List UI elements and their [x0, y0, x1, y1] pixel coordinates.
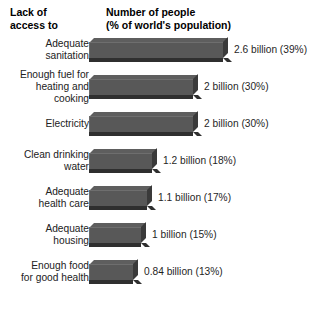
bar-front-face: [89, 264, 133, 280]
bar-bottom-face: [89, 206, 147, 210]
bar-bottom-face: [89, 132, 193, 136]
bar: [89, 260, 133, 284]
bar-category-label-line: Adequate: [3, 38, 89, 50]
bar-value-label: 2 billion (30%): [204, 81, 269, 93]
bar-category-label-line: sanitation: [3, 50, 89, 62]
bar-category-label-line: cooking: [3, 93, 89, 105]
bar: [89, 223, 141, 247]
bar-row: Electricity2 billion (30%): [0, 108, 321, 145]
bar-row: Enough fuel forheating andcooking2 billi…: [0, 71, 321, 108]
bar-category-label: Clean drinkingwater: [3, 149, 89, 173]
bar-bottom-face: [89, 95, 193, 99]
bar-category-label-line: housing: [3, 235, 89, 247]
bar-category-label: Electricity: [3, 118, 89, 130]
bar-side-face: [193, 74, 198, 95]
bar-category-label-line: Enough fuel for: [3, 69, 89, 81]
header-right-line-1: Number of people: [106, 6, 306, 19]
bar-bottom-face: [89, 169, 152, 173]
bar-category-label-line: Enough food: [3, 260, 89, 272]
bar-category-label-line: water: [3, 161, 89, 173]
bar-category-label-line: Adequate: [3, 186, 89, 198]
bar-value-label: 1.1 billion (17%): [158, 192, 231, 204]
bar-row: Adequatesanitation2.6 billion (39%): [0, 34, 321, 71]
bar: [89, 38, 223, 62]
bar-value-label: 2.6 billion (39%): [234, 44, 307, 56]
bar-side-face: [223, 37, 228, 58]
bar-row: Enough foodfor good health0.84 billion (…: [0, 256, 321, 293]
bar-value-label: 1.2 billion (18%): [163, 155, 236, 167]
bar-side-face: [133, 259, 138, 280]
bar-value-label: 1 billion (15%): [152, 229, 217, 241]
bar-chart: Lack of access to Number of people (% of…: [0, 0, 321, 310]
bar-front-face: [89, 116, 193, 132]
chart-axis-title-right: Number of people (% of world's populatio…: [106, 6, 306, 31]
bar-value-label: 0.84 billion (13%): [144, 266, 223, 278]
bar-category-label-line: Electricity: [3, 118, 89, 130]
bar-front-face: [89, 227, 141, 243]
bar-category-label: Enough fuel forheating andcooking: [3, 69, 89, 105]
bar-category-label: Adequatehealth care: [3, 186, 89, 210]
bar-row: Adequatehousing1 billion (15%): [0, 219, 321, 256]
bar-bottom-face: [89, 243, 141, 247]
bar-category-label: Adequatesanitation: [3, 38, 89, 62]
bar-category-label-line: health care: [3, 198, 89, 210]
bar-front-face: [89, 42, 223, 58]
bar-category-label-line: Adequate: [3, 223, 89, 235]
bar-category-label-line: heating and: [3, 81, 89, 93]
bar: [89, 186, 147, 210]
bar-category-label: Adequatehousing: [3, 223, 89, 247]
bar-side-face: [193, 111, 198, 132]
bar-front-face: [89, 79, 193, 95]
bar-bottom-face: [89, 58, 223, 62]
bar-side-face: [147, 185, 152, 206]
header-left-line-2: access to: [10, 19, 90, 32]
bar-row: Clean drinkingwater1.2 billion (18%): [0, 145, 321, 182]
bar-value-label: 2 billion (30%): [204, 118, 269, 130]
bar: [89, 75, 193, 99]
bar-row: Adequatehealth care1.1 billion (17%): [0, 182, 321, 219]
bar-side-face: [152, 148, 157, 169]
bar-category-label-line: for good health: [3, 272, 89, 284]
header-left-line-1: Lack of: [10, 6, 90, 19]
bar-category-label-line: Clean drinking: [3, 149, 89, 161]
bar-category-label: Enough foodfor good health: [3, 260, 89, 284]
bar-front-face: [89, 153, 152, 169]
bar: [89, 112, 193, 136]
bar-front-face: [89, 190, 147, 206]
bar-bottom-face: [89, 280, 133, 284]
chart-axis-title-left: Lack of access to: [10, 6, 90, 31]
header-right-line-2: (% of world's population): [106, 19, 306, 32]
bar-side-face: [141, 222, 146, 243]
bar: [89, 149, 152, 173]
